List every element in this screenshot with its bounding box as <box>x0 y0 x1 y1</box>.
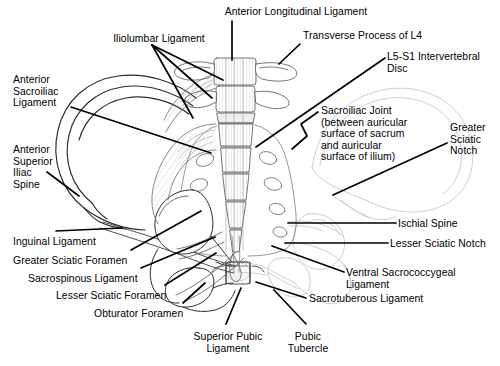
label-anterior-longitudinal-ligament: Anterior Longitudinal Ligament <box>225 6 367 18</box>
label-lesser-sciatic-notch: Lesser Sciatic Notch <box>390 238 486 250</box>
label-line: Ventral Sacrococcygeal <box>346 267 456 279</box>
label-line: Lesser Sciatic Foramen <box>56 290 166 302</box>
label-line: Superior <box>13 156 53 168</box>
label-layer: Anterior Longitudinal LigamentIliolumbar… <box>0 0 500 366</box>
label-line: surface of sacrum <box>321 128 407 140</box>
label-line: Ligament <box>13 97 59 109</box>
label-line: Inguinal Ligament <box>13 236 96 248</box>
label-line: Sacrotuberous Ligament <box>309 293 423 305</box>
label-line: Anterior Longitudinal Ligament <box>225 6 367 18</box>
label-lesser-sciatic-foramen: Lesser Sciatic Foramen <box>56 290 166 302</box>
label-line: (between auricular <box>321 117 407 129</box>
label-line: Ligament <box>346 279 456 291</box>
label-line: Ischial Spine <box>398 218 458 230</box>
label-line: Obturator Foramen <box>94 308 183 320</box>
label-greater-sciatic-foramen: Greater Sciatic Foramen <box>13 255 127 267</box>
label-line: and auricular <box>321 140 407 152</box>
label-line: Iliac <box>13 167 53 179</box>
label-line: Spine <box>13 179 53 191</box>
label-line: Transverse Process of L4 <box>303 30 422 42</box>
label-line: Ligament <box>194 343 263 355</box>
label-line: surface of ilium) <box>321 151 407 163</box>
anatomy-figure: Anterior Longitudinal LigamentIliolumbar… <box>0 0 500 366</box>
label-iliolumbar-ligament: Iliolumbar Ligament <box>113 33 205 45</box>
label-sacroiliac-joint: Sacroiliac Joint(between auricularsurfac… <box>321 105 407 163</box>
label-line: Sacroiliac Joint <box>321 105 407 117</box>
label-line: Lesser Sciatic Notch <box>390 238 486 250</box>
label-line: L5-S1 Intervertebral <box>387 51 480 63</box>
label-line: Pubic <box>288 331 328 343</box>
label-ventral-sacrococcygeal-ligament: Ventral SacrococcygealLigament <box>346 267 456 290</box>
label-ischial-spine: Ischial Spine <box>398 218 458 230</box>
label-line: Sacrospinous Ligament <box>28 273 138 285</box>
label-obturator-foramen: Obturator Foramen <box>94 308 183 320</box>
label-line: Tubercle <box>288 343 328 355</box>
label-greater-sciatic-notch: GreaterSciaticNotch <box>450 122 486 157</box>
label-sacrotuberous-ligament: Sacrotuberous Ligament <box>309 293 423 305</box>
label-anterior-sacroiliac-ligament: AnteriorSacroiliacLigament <box>13 74 59 109</box>
label-line: Sciatic <box>450 134 486 146</box>
label-superior-pubic-ligament: Superior PubicLigament <box>194 331 263 354</box>
label-line: Anterior <box>13 144 53 156</box>
label-line: Sacroiliac <box>13 86 59 98</box>
label-inguinal-ligament: Inguinal Ligament <box>13 236 96 248</box>
label-l5-s1-intervertebral-disc: L5-S1 IntervertebralDisc <box>387 51 480 74</box>
label-transverse-process-of-l4: Transverse Process of L4 <box>303 30 422 42</box>
label-line: Greater <box>450 122 486 134</box>
label-pubic-tubercle: PubicTubercle <box>288 331 328 354</box>
label-line: Notch <box>450 145 486 157</box>
label-line: Iliolumbar Ligament <box>113 33 205 45</box>
label-line: Disc <box>387 63 480 75</box>
label-line: Greater Sciatic Foramen <box>13 255 127 267</box>
label-sacrospinous-ligament: Sacrospinous Ligament <box>28 273 138 285</box>
label-line: Superior Pubic <box>194 331 263 343</box>
label-anterior-superior-iliac-spine: AnteriorSuperiorIliacSpine <box>13 144 53 190</box>
label-line: Anterior <box>13 74 59 86</box>
